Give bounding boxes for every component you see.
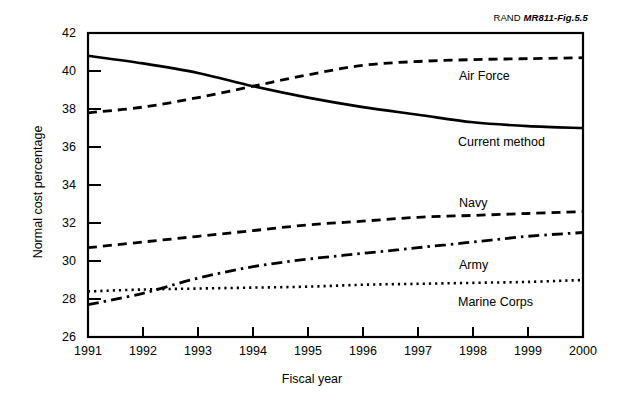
series-label-army: Army	[459, 259, 488, 272]
y-axis-title: Normal cost percentage	[31, 72, 45, 312]
series-label-air-force: Air Force	[459, 70, 510, 83]
series-label-marine-corps: Marine Corps	[458, 296, 533, 309]
x-axis-tick-label: 1992	[119, 345, 167, 358]
series-label-current-method: Current method	[458, 136, 545, 149]
x-axis-tick-label: 1997	[394, 345, 442, 358]
y-axis-tick-label: 34	[48, 179, 76, 192]
y-axis-tick-label: 30	[48, 255, 76, 268]
x-axis-tick-label: 2000	[559, 345, 607, 358]
series-label-navy: Navy	[459, 197, 487, 210]
x-axis-tick-label: 1998	[449, 345, 497, 358]
x-axis-tick-label: 1996	[339, 345, 387, 358]
x-axis-tick-label: 1994	[229, 345, 277, 358]
y-axis-tick-label: 40	[48, 65, 76, 78]
line-chart	[0, 0, 624, 403]
x-axis-title: Fiscal year	[0, 372, 624, 386]
x-axis-tick-label: 1991	[64, 345, 112, 358]
y-axis-tick-label: 38	[48, 103, 76, 116]
y-axis-tick-label: 26	[48, 331, 76, 344]
x-axis-tick-label: 1999	[504, 345, 552, 358]
x-axis-tick-label: 1995	[284, 345, 332, 358]
y-axis-tick-label: 36	[48, 141, 76, 154]
y-axis-tick-label: 42	[48, 27, 76, 40]
y-axis-tick-label: 28	[48, 293, 76, 306]
y-axis-tick-label: 32	[48, 217, 76, 230]
figure-root: RAND MR811-Fig.5.5	[0, 0, 624, 403]
x-axis-tick-label: 1993	[174, 345, 222, 358]
